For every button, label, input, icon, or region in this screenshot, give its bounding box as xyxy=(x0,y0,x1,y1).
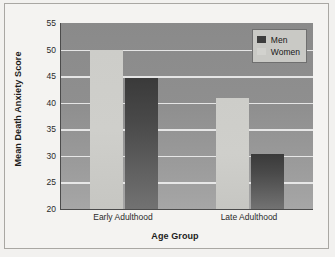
legend-item-men[interactable]: Men xyxy=(257,34,300,45)
x-tick-label: Early Adulthood xyxy=(93,212,153,222)
y-tick-label: 50 xyxy=(30,45,56,55)
y-tick-label: 55 xyxy=(30,18,56,28)
y-tick-label: 45 xyxy=(30,71,56,81)
y-tick-label: 40 xyxy=(30,98,56,108)
y-axis-tick-labels: 2025303540455055 xyxy=(30,0,56,257)
bar-men[interactable] xyxy=(125,78,158,209)
x-tick-label: Late Adulthood xyxy=(221,212,278,222)
bar-men[interactable] xyxy=(251,154,284,209)
bar-women[interactable] xyxy=(90,50,123,209)
legend-swatch-women-icon xyxy=(257,48,266,55)
y-tick-label: 30 xyxy=(30,151,56,161)
y-tick-label: 25 xyxy=(30,177,56,187)
plot-area: Men Women xyxy=(60,23,313,210)
y-axis-title: Mean Death Anxiety Score xyxy=(13,29,23,189)
bar-women[interactable] xyxy=(216,98,249,209)
x-axis-title: Age Group xyxy=(60,231,290,241)
y-tick-label: 20 xyxy=(30,204,56,214)
figure: Mean Death Anxiety Score 202530354045505… xyxy=(0,0,335,257)
legend[interactable]: Men Women xyxy=(252,29,307,63)
legend-item-women[interactable]: Women xyxy=(257,46,300,57)
legend-label-men: Men xyxy=(271,35,288,45)
legend-swatch-men-icon xyxy=(257,36,266,43)
legend-label-women: Women xyxy=(271,47,300,57)
y-tick-label: 35 xyxy=(30,124,56,134)
